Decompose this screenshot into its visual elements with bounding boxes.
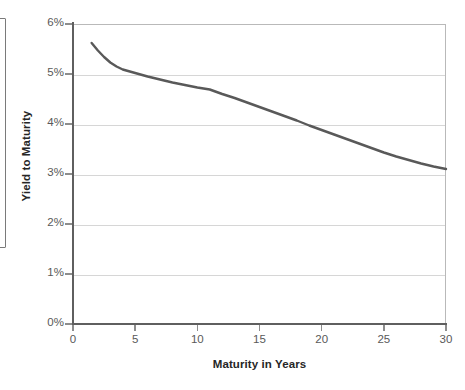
y-axis-tick-mark — [65, 223, 72, 224]
gridline-y — [74, 75, 445, 76]
y-axis-tick-mark — [65, 273, 72, 274]
y-axis-tick-mark — [65, 23, 72, 24]
gridline-y — [74, 225, 445, 226]
x-axis-tick-label: 30 — [426, 333, 465, 345]
y-axis-tick-label: 1% — [24, 266, 64, 278]
y-axis-title: Yield to Maturity — [20, 86, 32, 226]
gridline-y — [74, 175, 445, 176]
y-axis-tick-mark — [65, 173, 72, 174]
x-axis-tick-mark — [72, 325, 73, 331]
y-axis-tick-mark — [65, 323, 72, 324]
x-axis-tick-label: 25 — [364, 333, 404, 345]
plot-area — [73, 24, 446, 324]
y-axis-line — [72, 22, 74, 326]
chart-figure: 0%1%2%3%4%5%6% 051015202530 Maturity in … — [0, 0, 465, 390]
x-axis-tick-mark — [321, 325, 322, 331]
x-axis-tick-mark — [383, 325, 384, 331]
x-axis-tick-mark — [259, 325, 260, 331]
y-axis-tick-mark — [65, 123, 72, 124]
y-axis-tick-label: 5% — [24, 66, 64, 78]
y-axis-tick-label: 0% — [24, 316, 64, 328]
x-axis-tick-mark — [197, 325, 198, 331]
x-axis-tick-label: 5 — [115, 333, 155, 345]
x-axis-tick-label: 10 — [177, 333, 217, 345]
y-axis-tick-label: 6% — [24, 16, 64, 28]
x-axis-tick-label: 15 — [240, 333, 280, 345]
x-axis-tick-mark — [445, 325, 446, 331]
chart-root: 0%1%2%3%4%5%6% 051015202530 Maturity in … — [0, 0, 465, 390]
x-axis-title: Maturity in Years — [73, 358, 446, 370]
y-axis-tick-mark — [65, 73, 72, 74]
x-axis-tick-mark — [134, 325, 135, 331]
x-axis-tick-label: 20 — [302, 333, 342, 345]
gridline-y — [74, 125, 445, 126]
gridline-y — [74, 275, 445, 276]
x-axis-tick-label: 0 — [53, 333, 93, 345]
